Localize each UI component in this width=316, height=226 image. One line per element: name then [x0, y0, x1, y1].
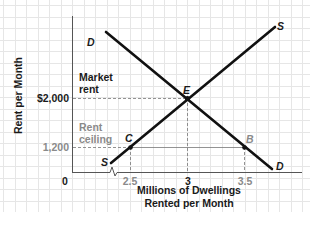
market-rent-label-1: Market [79, 71, 113, 83]
demand-label-top: D [87, 36, 95, 48]
rent-ceiling-label-1: Rent [79, 121, 103, 133]
market-rent-label-2: rent [79, 83, 99, 95]
demand-label-bottom: D [276, 160, 284, 172]
supply-demand-chart: Rent per Month Millions of Dwellings Ren… [0, 0, 316, 226]
tick-3: 3 [185, 175, 191, 187]
rent-ceiling-label-2: ceiling [79, 133, 112, 145]
x-axis-label-2: Rented per Month [144, 197, 233, 209]
supply-label-top: S [277, 20, 284, 32]
tick-2-5: 2.5 [123, 175, 138, 187]
tick-2000: $2,000 [37, 92, 69, 104]
supply-label-bottom: S [101, 156, 108, 168]
point-C-label: C [125, 132, 133, 144]
origin-label: 0 [62, 175, 68, 187]
point-E [185, 96, 190, 101]
point-B [242, 145, 247, 150]
point-C [128, 145, 133, 150]
y-axis-label: Rent per Month [12, 57, 24, 134]
point-E-label: E [183, 84, 191, 96]
point-B-label: B [246, 133, 254, 145]
tick-1200: 1,200 [43, 141, 69, 153]
tick-3-5: 3.5 [238, 175, 253, 187]
grid [0, 0, 310, 212]
